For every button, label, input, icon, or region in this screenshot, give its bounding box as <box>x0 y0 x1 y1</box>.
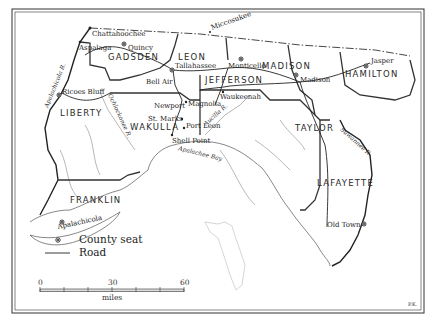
county-wakulla: WAKULLA <box>130 122 179 132</box>
scale-label-0: 0 <box>38 278 43 287</box>
town-dot <box>185 101 187 103</box>
scale-label-30: 30 <box>108 278 118 287</box>
legend-county-seat-core <box>57 239 59 241</box>
county-jefferson: JEFFERSON <box>204 75 263 85</box>
county-boundary <box>226 38 228 60</box>
town-dot <box>209 31 211 33</box>
scale-unit-label: miles <box>102 293 122 302</box>
florida-inset <box>205 222 245 290</box>
town-bell-air: Bell Air <box>146 78 173 86</box>
town-chattahoochee: Chattahoochee <box>92 30 146 38</box>
town-ricoes-bluff: Ricoes Bluff <box>62 88 105 96</box>
town-aspalaga: Aspalaga <box>78 44 111 52</box>
label-suwannee-river: Suwannee R. <box>339 126 373 158</box>
county-leon: LEON <box>178 52 206 62</box>
town-st-marks: St. Marks <box>148 115 183 123</box>
town-newport: Newport <box>154 102 185 110</box>
creek <box>255 140 290 170</box>
town-monticello: Monticello <box>228 62 266 70</box>
label-ochlockonee-river: Ochlockonee R. <box>107 92 133 138</box>
county-boundary <box>300 120 320 210</box>
county-liberty: LIBERTY <box>60 108 103 118</box>
county-seat-core <box>171 69 173 71</box>
town-quincy: Quincy <box>128 44 153 52</box>
county-seat-core <box>58 94 60 96</box>
creek <box>85 125 100 175</box>
label-apalachee-bay: Apalachee Bay <box>177 144 224 163</box>
county-seat-core <box>365 65 367 67</box>
county-taylor: TAYLOR <box>294 123 334 133</box>
town-apalachicola: Apalachicola <box>56 214 103 231</box>
county-franklin: FRANKLIN <box>70 195 121 205</box>
legend-county-seat-label: County seat <box>79 233 143 245</box>
county-seat-core <box>123 43 125 45</box>
county-gadsden: GADSDEN <box>108 52 159 62</box>
town-dot <box>171 134 173 136</box>
town-shell-point: Shell Point <box>172 137 211 145</box>
county-seat-core <box>240 58 242 60</box>
town-magnolia: Magnolia <box>188 100 221 108</box>
town-old-town: Old Town <box>327 221 361 229</box>
county-madison: MADISON <box>262 61 311 71</box>
apalachicola-river <box>40 28 90 215</box>
town-miccosukee: Miccosukee <box>210 10 252 32</box>
county-seat-core <box>363 223 365 225</box>
town-tallahassee: Tallahassee <box>175 62 216 70</box>
scale-bar: 0 30 60 miles <box>38 278 190 302</box>
town-dot <box>183 127 185 129</box>
county-lafayette: LAFAYETTE <box>317 178 374 188</box>
legend-road-label: Road <box>79 246 106 258</box>
county-seat-core <box>295 74 297 76</box>
town-dot <box>79 41 82 44</box>
map-credit: P.K. <box>408 301 418 307</box>
historical-map: GADSDEN LEON JEFFERSON MADISON HAMILTON … <box>0 0 437 331</box>
county-hamilton: HAMILTON <box>345 69 398 79</box>
scale-label-60: 60 <box>180 278 190 287</box>
town-waukeenah: Waukeenah <box>220 93 261 101</box>
town-jasper: Jasper <box>370 57 394 65</box>
town-madison: Madison <box>300 76 331 84</box>
creek <box>60 150 80 200</box>
